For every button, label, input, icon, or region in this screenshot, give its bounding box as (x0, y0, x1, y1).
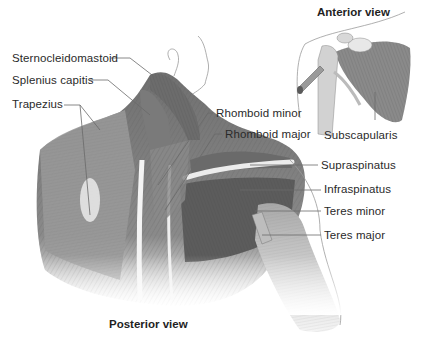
humerus (318, 45, 338, 136)
scapula-left-acromion (80, 178, 100, 222)
label-subscapularis: Subscapularis (324, 129, 398, 142)
label-rhomboid-major: Rhomboid major (225, 128, 311, 141)
anterior-view-figure (297, 12, 411, 136)
label-trapezius: Trapezius (12, 98, 63, 111)
label-supraspinatus: Supraspinatus (321, 159, 396, 172)
label-teres-minor: Teres minor (324, 205, 385, 218)
anterior-view-title: Anterior view (317, 6, 390, 19)
label-infraspinatus: Infraspinatus (324, 183, 391, 196)
label-splenius-capitis: Splenius capitis (12, 74, 94, 87)
head-outline (190, 36, 209, 96)
label-teres-major: Teres major (324, 229, 385, 242)
label-sternocleidomastoid: Sternocleidomastoid (12, 52, 118, 65)
label-rhomboid-minor: Rhomboid minor (216, 107, 302, 120)
posterior-view-title: Posterior view (109, 318, 188, 331)
anatomy-diagram: Anterior view Posterior view Sternocleid… (0, 0, 424, 344)
ear-outline (168, 49, 179, 76)
